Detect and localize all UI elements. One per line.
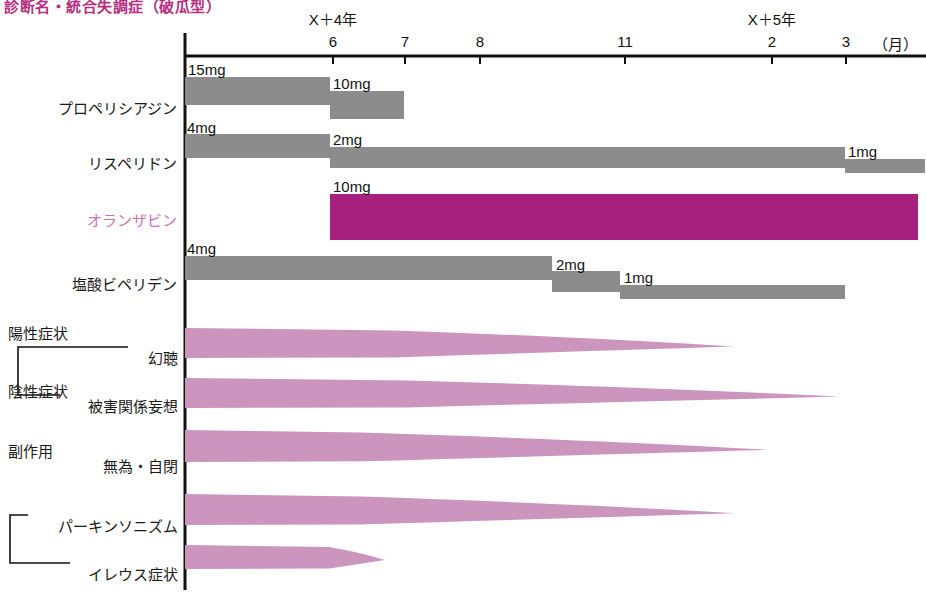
symptom-wedge-0-1 (185, 378, 840, 408)
med-bar-0-1 (330, 91, 404, 119)
dose-label-3-2: 1mg (624, 269, 653, 286)
axis-month-label-4: 2 (752, 33, 792, 50)
symptom-wedge-0-0 (185, 328, 735, 358)
symptom-label-2-0: パーキンソニズム (0, 515, 178, 536)
symptom-label-2-1: イレウス症状 (0, 563, 178, 584)
dose-label-1-0: 4mg (187, 119, 216, 136)
med-bar-1-2 (845, 159, 925, 173)
med-bar-1-1 (330, 147, 845, 168)
axis-month-label-2: 8 (460, 33, 500, 50)
med-bar-3-1 (552, 271, 620, 292)
treatment-timeline-chart: 診断名・統合失調症（破瓜型） 6781123X＋4年X＋5年（月）15mg10m… (0, 0, 926, 595)
chart-canvas (0, 0, 926, 595)
symptom-group-label-0: 陽性症状 (8, 322, 68, 343)
axis-year-label-0: X＋4年 (289, 8, 377, 29)
dose-label-0-1: 10mg (333, 75, 371, 92)
symptom-wedge-1-0 (185, 430, 770, 462)
dose-label-0-0: 15mg (188, 61, 226, 78)
symptom-wedge-2-1 (185, 545, 385, 569)
axis-month-label-3: 11 (605, 33, 645, 50)
drug-name-1: リスペリドン (0, 152, 177, 173)
med-bar-2-0 (330, 194, 918, 240)
medication-bars-group (185, 77, 925, 299)
med-bar-1-0 (185, 134, 330, 158)
axis-year-label-1: X＋5年 (728, 8, 816, 29)
dose-label-1-1: 2mg (333, 131, 362, 148)
axis-month-label-5: 3 (826, 33, 866, 50)
drug-name-0: プロペリシアジン (0, 97, 177, 118)
dose-label-1-2: 1mg (848, 143, 877, 160)
symptom-group-label-1: 陰性症状 (8, 380, 68, 401)
symptom-group-label-2: 副作用 (8, 440, 53, 461)
symptom-wedges-group (185, 328, 840, 569)
med-bar-3-0 (185, 256, 552, 280)
med-bar-0-0 (185, 77, 330, 105)
axis-month-label-1: 7 (385, 33, 425, 50)
dose-label-3-1: 2mg (556, 256, 585, 273)
drug-name-2: オランザビン (0, 209, 177, 230)
axis-unit-label: （月） (873, 33, 918, 54)
dose-label-3-0: 4mg (187, 240, 216, 257)
drug-name-3: 塩酸ビペリデン (0, 273, 177, 294)
dose-label-2-0: 10mg (333, 178, 371, 195)
symptom-label-0-0: 幻聴 (0, 347, 178, 368)
med-bar-3-2 (620, 285, 845, 299)
symptom-wedge-2-0 (185, 494, 735, 525)
axis-month-label-0: 6 (313, 33, 353, 50)
